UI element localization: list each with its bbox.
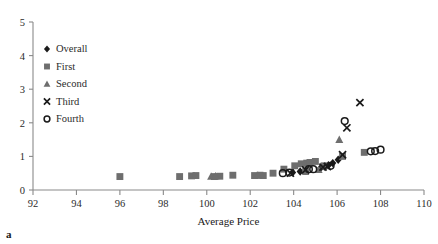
legend-marker-square-icon — [44, 64, 50, 70]
y-tick-label: 3 — [20, 84, 25, 95]
x-tick-label: 92 — [28, 198, 39, 209]
x-tick-label: 100 — [199, 198, 215, 209]
data-point — [341, 118, 348, 125]
panel-label: a — [6, 228, 12, 240]
axes-group — [33, 22, 424, 190]
scatter-plot-figure: 012345 92949698100102104106108110 Averag… — [0, 0, 438, 244]
legend-item-second: Second — [44, 78, 88, 89]
chart-canvas: 012345 92949698100102104106108110 Averag… — [0, 0, 438, 244]
data-point — [361, 149, 368, 156]
legend-label: Second — [56, 78, 88, 89]
legend-marker-circle-open-icon — [44, 116, 50, 122]
data-point — [343, 124, 350, 131]
data-point — [229, 172, 236, 179]
data-point — [310, 166, 317, 173]
x-tick-label: 96 — [115, 198, 126, 209]
legend-marker-cross-icon — [44, 98, 50, 104]
legend-marker-diamond-icon — [44, 45, 50, 52]
y-tick-label: 4 — [20, 51, 26, 62]
legend-item-first: First — [44, 61, 75, 72]
y-tick-label: 1 — [20, 151, 25, 162]
data-point — [176, 173, 183, 180]
y-axis-ticks: 012345 — [20, 17, 33, 196]
data-point — [291, 162, 298, 169]
x-axis-ticks: 92949698100102104106108110 — [28, 190, 432, 209]
legend-label: Fourth — [56, 113, 85, 124]
data-point — [356, 99, 363, 106]
x-axis-title: Average Price — [198, 215, 260, 227]
x-tick-label: 106 — [329, 198, 345, 209]
x-tick-label: 108 — [373, 198, 389, 209]
x-tick-label: 110 — [416, 198, 431, 209]
chart-legend: OverallFirstSecondThirdFourth — [44, 43, 88, 124]
legend-label: Third — [56, 96, 80, 107]
data-point — [335, 135, 343, 142]
data-point — [270, 170, 277, 177]
legend-marker-triangle-icon — [44, 80, 51, 86]
data-point — [312, 158, 319, 165]
y-tick-label: 0 — [20, 185, 25, 196]
y-tick-label: 5 — [20, 17, 25, 28]
legend-item-fourth: Fourth — [44, 113, 85, 124]
data-point — [192, 172, 199, 179]
legend-label: First — [56, 61, 75, 72]
legend-item-overall: Overall — [44, 43, 88, 54]
x-tick-label: 104 — [286, 198, 303, 209]
x-tick-label: 102 — [242, 198, 258, 209]
x-tick-label: 98 — [158, 198, 169, 209]
y-tick-label: 2 — [20, 118, 25, 129]
legend-item-third: Third — [44, 96, 80, 107]
x-tick-label: 94 — [71, 198, 82, 209]
legend-label: Overall — [56, 43, 88, 54]
data-series-group — [116, 99, 383, 180]
data-point — [116, 173, 123, 180]
